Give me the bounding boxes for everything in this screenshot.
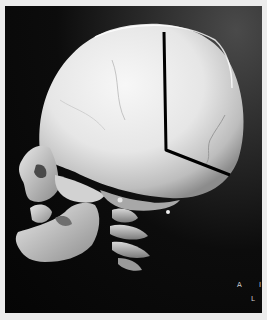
mandible xyxy=(16,203,99,262)
ct-render-panel: A I L xyxy=(5,6,262,313)
image-frame: A I L xyxy=(0,0,267,320)
orientation-label-edge: I xyxy=(259,282,261,289)
orientation-label-anterior: A xyxy=(237,282,242,289)
cervical-spine xyxy=(110,208,150,270)
orientation-label-left: L xyxy=(251,296,255,303)
skull-render xyxy=(5,6,262,313)
cranium xyxy=(39,24,243,198)
